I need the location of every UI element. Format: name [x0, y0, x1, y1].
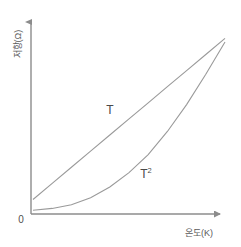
x-axis-label: 온도(K)	[185, 228, 213, 238]
curve-annotation-T2-superscript: 2	[148, 166, 152, 175]
curve-annotation-T2: T2	[140, 166, 152, 181]
resistance-temperature-chart: 0 온도(K) 저항(Ω) T T2	[0, 0, 241, 247]
chart-figure: 0 온도(K) 저항(Ω) T T2	[0, 0, 241, 247]
curve-annotation-T-base: T	[106, 103, 114, 117]
origin-label: 0	[18, 214, 24, 225]
y-axis-label: 저항(Ω)	[13, 30, 23, 59]
curve-annotation-T: T	[106, 103, 114, 117]
curve-quadratic-T2	[33, 42, 225, 210]
curve-linear-T	[33, 38, 225, 199]
